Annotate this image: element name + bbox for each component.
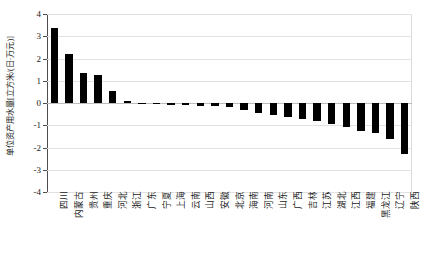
y-tick-label: -2: [34, 143, 42, 153]
bar: [299, 103, 307, 119]
x-tick-label: 黑龙江: [381, 191, 392, 255]
bar: [386, 103, 394, 139]
x-tick-label: 海南: [249, 191, 260, 255]
bar: [182, 103, 190, 105]
x-tick-label: 广西: [293, 191, 304, 255]
bar: [138, 103, 146, 104]
x-tick-label: 上海: [176, 191, 187, 255]
bar: [255, 103, 263, 113]
x-tick-label: 山东: [278, 191, 289, 255]
bar: [51, 28, 59, 103]
x-tick-label: 浙江: [132, 191, 143, 255]
x-tick-label: 安徽: [220, 191, 231, 255]
x-tick-label: 山西: [205, 191, 216, 255]
y-tick-label: 3: [37, 31, 42, 41]
bar: [270, 103, 278, 115]
bar: [357, 103, 365, 131]
x-tick-label: 陕西: [410, 191, 421, 255]
bar: [109, 91, 117, 103]
bar: [313, 103, 321, 121]
x-tick-label: 广东: [147, 191, 158, 255]
x-tick-label: 江苏: [322, 191, 333, 255]
x-tick-label: 云南: [191, 191, 202, 255]
y-tick-label: -3: [34, 165, 42, 175]
bar: [226, 103, 234, 107]
bar: [94, 75, 102, 103]
x-tick-label: 宁夏: [162, 191, 173, 255]
x-tick-label: 北京: [235, 191, 246, 255]
bar: [80, 73, 88, 103]
x-tick-label: 内蒙古: [74, 191, 85, 255]
chart-figure: 单位资产用水量[立方米/(日·万元)] 43210-1-2-3-4 四川内蒙古贵…: [0, 0, 434, 262]
y-tick-label: 1: [37, 76, 42, 86]
plot-area: 43210-1-2-3-4: [47, 14, 412, 192]
y-tick-label: 0: [37, 98, 42, 108]
bar: [65, 54, 73, 103]
x-tick-label: 辽宁: [395, 191, 406, 255]
y-tick-label: -4: [34, 187, 42, 197]
y-axis-title: 单位资产用水量[立方米/(日·万元)]: [4, 0, 18, 196]
x-tick-label: 吉林: [308, 191, 319, 255]
bar: [401, 103, 409, 154]
bar: [372, 103, 380, 133]
bar: [211, 103, 219, 106]
bar: [343, 103, 351, 127]
x-tick-label: 河南: [264, 191, 275, 255]
bar: [328, 103, 336, 124]
bar: [240, 103, 248, 110]
x-tick-label: 贵州: [89, 191, 100, 255]
y-tick-label: 4: [37, 9, 42, 19]
x-axis-tick-labels: 四川内蒙古贵州重庆河北浙江广东宁夏上海云南山西安徽北京海南河南山东广西吉林江苏湖…: [47, 193, 412, 262]
x-tick-label: 四川: [59, 191, 70, 255]
y-tick-label: 2: [37, 54, 42, 64]
x-tick-label: 江西: [351, 191, 362, 255]
x-tick-label: 福建: [366, 191, 377, 255]
x-tick-label: 湖北: [337, 191, 348, 255]
bar: [153, 103, 161, 104]
x-tick-label: 重庆: [103, 191, 114, 255]
x-tick-label: 河北: [118, 191, 129, 255]
bar-series: [47, 14, 412, 192]
y-tick-label: -1: [34, 120, 42, 130]
bar: [124, 101, 132, 103]
bar: [167, 103, 175, 105]
bar: [284, 103, 292, 117]
bar: [197, 103, 205, 106]
